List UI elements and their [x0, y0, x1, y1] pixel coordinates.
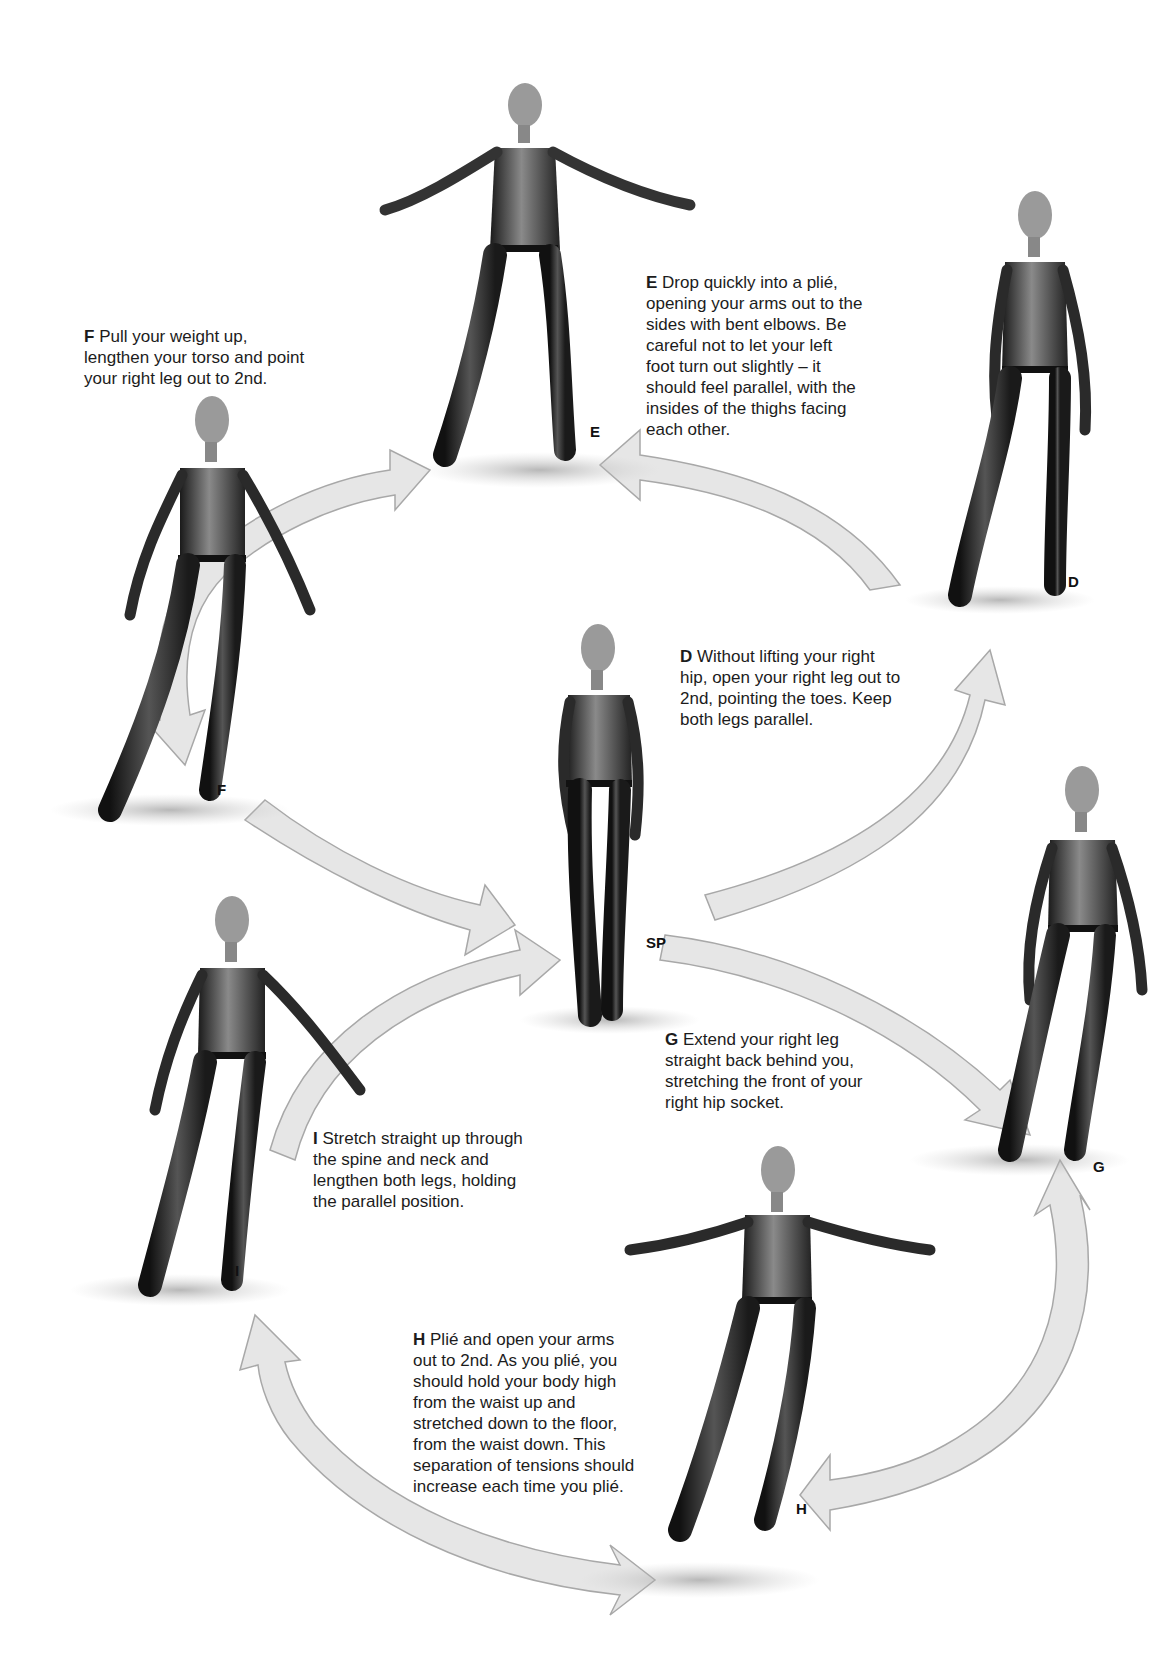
figure-label-d: D — [1068, 573, 1079, 590]
exercise-diagram-page: E D F SP G I H E Drop quickly into a pli… — [0, 0, 1150, 1658]
caption-f-letter: F — [84, 327, 94, 346]
caption-g: G Extend your right leg straight back be… — [665, 1029, 905, 1113]
caption-e-letter: E — [646, 273, 657, 292]
arrow-g-to-h — [800, 1160, 1090, 1530]
figure-e-dancer — [385, 83, 690, 488]
figure-f-dancer — [50, 396, 310, 826]
caption-g-letter: G — [665, 1030, 678, 1049]
figure-label-e: E — [590, 423, 600, 440]
caption-i-letter: I — [313, 1129, 318, 1148]
figure-d-dancer — [905, 191, 1095, 614]
figure-label-h: H — [796, 1500, 807, 1517]
caption-e: E Drop quickly into a plié, opening your… — [646, 272, 896, 440]
caption-h: H Plié and open your arms out to 2nd. As… — [413, 1329, 673, 1497]
arrow-i-to-sp — [270, 930, 560, 1160]
caption-d: D Without lifting your right hip, open y… — [680, 646, 940, 730]
figure-g-dancer — [910, 766, 1142, 1176]
caption-h-letter: H — [413, 1330, 425, 1349]
figure-label-f: F — [217, 781, 226, 798]
figure-label-sp: SP — [646, 934, 666, 951]
figure-sp-dancer — [520, 624, 700, 1034]
arrow-d-to-e — [600, 430, 900, 590]
arrow-f-to-sp — [245, 800, 515, 955]
figure-label-g: G — [1093, 1158, 1105, 1175]
caption-f: F Pull your weight up, lengthen your tor… — [84, 326, 344, 389]
caption-i: I Stretch straight up through the spine … — [313, 1128, 573, 1212]
figure-label-i: I — [235, 1262, 239, 1279]
caption-d-letter: D — [680, 647, 692, 666]
